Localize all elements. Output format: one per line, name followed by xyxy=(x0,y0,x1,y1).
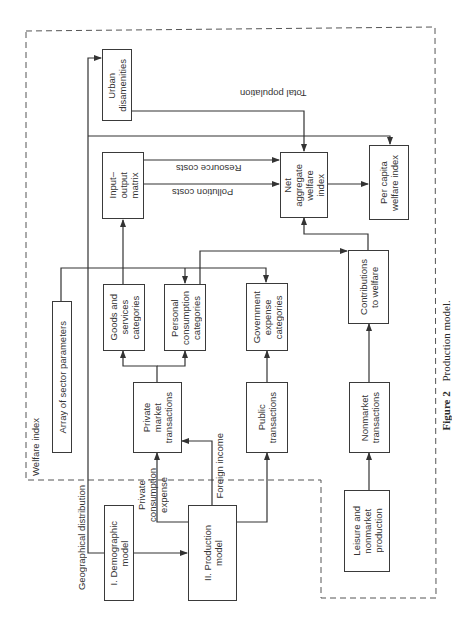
demographic-model-box[interactable]: I. Demographic model xyxy=(104,505,134,601)
array-of-sector-parameters-box[interactable]: Array of sector parameters xyxy=(52,301,72,453)
private-market-transactions-label: Private market transactions xyxy=(141,392,174,443)
leisure-and-nonmarket-production-box[interactable]: Leisure and nonmarket production xyxy=(344,490,390,572)
goods-and-services-categories-box[interactable]: Goods and services categories xyxy=(103,284,145,351)
net-aggregate-welfare-index-box[interactable]: Net aggregate welfare index xyxy=(280,152,328,218)
total-population-label: Total population xyxy=(240,88,307,99)
figure-caption: Figure 2Production model. xyxy=(440,300,452,431)
nonmarket-transactions-label: Nonmarket transactions xyxy=(359,392,381,443)
goods-and-services-categories-label: Goods and services categories xyxy=(108,294,141,340)
input-output-matrix-box[interactable]: Input– output matrix xyxy=(102,152,144,219)
production-model-label: II. Production model xyxy=(202,525,224,581)
government-expense-categories-label: Government expense categories xyxy=(251,291,284,343)
private-consumption-expense-label: Private consumption expense xyxy=(136,468,169,522)
per-capita-welfare-index-label: Per capita welfare index xyxy=(378,155,400,211)
array-of-sector-parameters-label: Array of sector parameters xyxy=(57,321,68,433)
foreign-income-label: Foreign income xyxy=(214,433,225,498)
production-model-box[interactable]: II. Production model xyxy=(188,505,237,601)
public-transactions-label: Public transactions xyxy=(256,392,278,443)
public-transactions-box[interactable]: Public transactions xyxy=(246,382,288,453)
personal-consumption-categories-label: Personal consumption categories xyxy=(169,291,202,345)
per-capita-welfare-index-box[interactable]: Per capita welfare index xyxy=(369,145,409,220)
resource-costs-label: Resource costs xyxy=(176,163,241,174)
private-market-transactions-box[interactable]: Private market transactions xyxy=(133,382,182,453)
personal-consumption-categories-box[interactable]: Personal consumption categories xyxy=(164,284,206,351)
pollution-costs-label: Pollution costs xyxy=(172,187,233,198)
nonmarket-transactions-box[interactable]: Nonmarket transactions xyxy=(349,382,390,453)
geographical-distribution-label: Geographical distribution xyxy=(76,485,87,590)
urban-disamenities-box[interactable]: Urban disamenities xyxy=(102,49,132,121)
contributions-to-welfare-box[interactable]: Contributions to welfare xyxy=(348,250,389,324)
net-aggregate-welfare-index-label: Net aggregate welfare index xyxy=(282,164,326,207)
urban-disamenities-label: Urban disamenities xyxy=(106,59,128,112)
demographic-model-label: I. Demographic model xyxy=(108,521,130,585)
input-output-matrix-label: Input– output matrix xyxy=(107,172,140,198)
figure-number: Figure 2 xyxy=(440,391,452,430)
government-expense-categories-box[interactable]: Government expense categories xyxy=(246,283,288,351)
leisure-and-nonmarket-production-label: Leisure and nonmarket production xyxy=(351,506,384,556)
welfare-index-region-label: Welfare index xyxy=(30,418,41,476)
figure-title: Production model. xyxy=(440,300,452,381)
contributions-to-welfare-label: Contributions to welfare xyxy=(358,259,380,315)
